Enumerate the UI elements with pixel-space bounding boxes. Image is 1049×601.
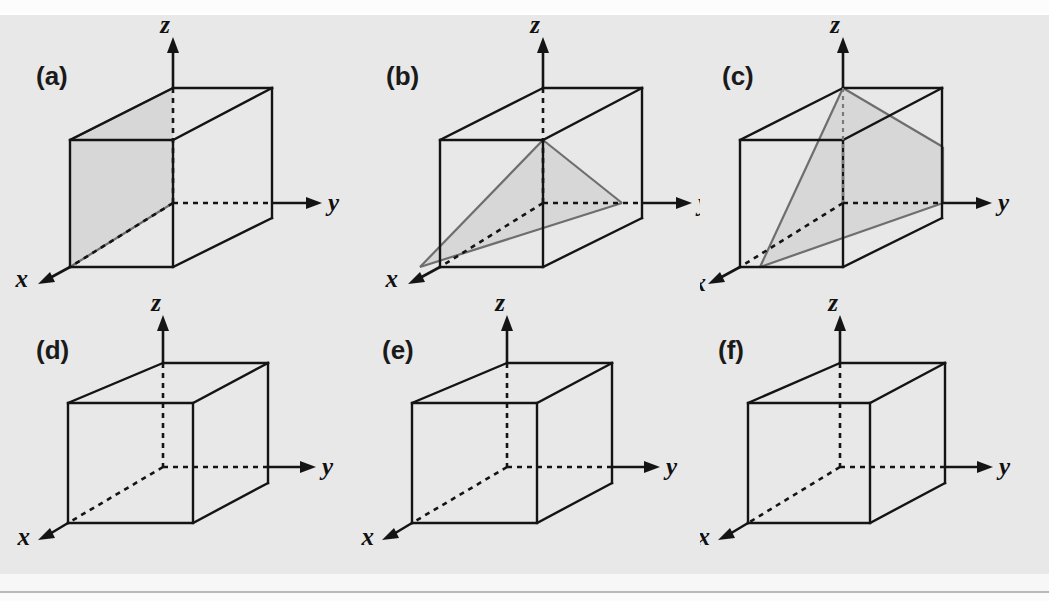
panel-a-drawing: z y x (a) <box>0 15 350 295</box>
x-axis-label-a: x <box>15 265 29 292</box>
y-axis-arrowhead-d <box>300 461 316 473</box>
z-axis-label-e: z <box>494 295 505 316</box>
bottom-rule-underline <box>0 593 1049 601</box>
y-axis-label-a: y <box>325 189 340 216</box>
z-axis-arrowhead-f <box>834 315 846 331</box>
panel-d: z y x (d) <box>0 295 350 575</box>
figure-canvas: z y x (a) <box>0 0 1049 601</box>
cube-d-hidden-diagonal-edge <box>68 467 163 523</box>
cube-d-bottom-front-edges <box>68 483 268 523</box>
cube-e-front-left-edges <box>412 363 507 523</box>
panel-d-drawing: z y x (d) <box>0 295 350 574</box>
z-axis-arrowhead-a <box>167 37 179 53</box>
z-axis-label-f: z <box>827 295 838 316</box>
x-axis-label-d: x <box>17 523 31 550</box>
y-axis-label-f: y <box>996 453 1011 480</box>
panel-b-drawing: z y x (b) <box>350 15 700 295</box>
x-axis-label-b: x <box>385 265 399 292</box>
cube-e-bottom-front-edges <box>412 483 612 523</box>
y-axis-arrowhead-a <box>306 197 322 209</box>
panel-label-a: (a) <box>36 61 68 91</box>
panel-grid: z y x (a) <box>0 15 1049 574</box>
cube-f-hidden-diagonal-edge <box>748 467 840 523</box>
cube-f-top-front-edges <box>748 363 945 403</box>
x-axis-arrowhead-c <box>708 272 725 284</box>
cube-e-top-front-edges <box>412 363 612 403</box>
panel-c-drawing: z y x (c) <box>700 15 1049 295</box>
cube-f-front-left-edges <box>748 363 840 523</box>
panel-label-f: (f) <box>718 335 744 365</box>
z-axis-arrowhead-b <box>537 37 549 53</box>
y-axis-arrowhead-c <box>976 197 992 209</box>
panel-label-e: (e) <box>382 335 414 365</box>
z-axis-arrowhead-e <box>501 315 513 331</box>
z-axis-label-b: z <box>529 15 540 38</box>
cube-d-front-left-edges <box>68 363 163 523</box>
cube-f-bottom-front-edges <box>748 483 945 523</box>
x-axis-arrowhead-d <box>38 528 55 540</box>
plane-fill-b <box>420 140 622 267</box>
x-axis-label-f: x <box>700 523 710 550</box>
x-axis-arrowhead-a <box>38 272 55 284</box>
x-axis-label-e: x <box>361 523 375 550</box>
panel-e: z y x (e) <box>350 295 700 575</box>
panel-e-drawing: z y x (e) <box>350 295 700 574</box>
panel-b: z y x (b) <box>350 15 700 295</box>
z-axis-label-d: z <box>150 295 161 316</box>
panel-c: z y x (c) <box>700 15 1049 295</box>
panel-label-b: (b) <box>386 61 419 91</box>
y-axis-label-e: y <box>663 453 678 480</box>
panel-f: z y x (f) <box>700 295 1049 575</box>
panel-f-drawing: z y x (f) <box>700 295 1049 574</box>
y-axis-arrowhead-b <box>676 197 692 209</box>
z-axis-label-a: z <box>159 15 170 38</box>
x-axis-arrowhead-f <box>718 528 735 540</box>
z-axis-label-c: z <box>829 15 840 38</box>
panel-label-c: (c) <box>722 61 754 91</box>
cube-b-top-front-edges <box>440 88 642 140</box>
x-axis-label-c: x <box>700 269 706 295</box>
y-axis-label-c: y <box>995 189 1010 216</box>
top-margin-strip <box>0 0 1049 13</box>
z-axis-arrowhead-c <box>837 37 849 53</box>
panel-a: z y x (a) <box>0 15 350 295</box>
y-axis-label-d: y <box>319 453 334 480</box>
panel-label-d: (d) <box>36 335 69 365</box>
x-axis-arrowhead-b <box>408 272 425 284</box>
y-axis-arrowhead-e <box>644 461 660 473</box>
cube-e-hidden-diagonal-edge <box>412 467 507 523</box>
cube-d-top-front-edges <box>68 363 268 403</box>
z-axis-arrowhead-d <box>157 315 169 331</box>
x-axis-arrowhead-e <box>382 528 399 540</box>
y-axis-arrowhead-f <box>977 461 993 473</box>
